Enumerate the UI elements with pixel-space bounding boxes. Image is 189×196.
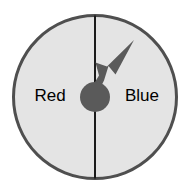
sector-label-red: Red (34, 86, 65, 105)
arrow-hub (80, 82, 110, 112)
spinner-diagram: Spinner with Red and Blue halves Red Blu… (0, 0, 189, 196)
sector-label-blue: Blue (125, 86, 159, 105)
spinner-canvas: Spinner with Red and Blue halves Red Blu… (0, 0, 189, 196)
